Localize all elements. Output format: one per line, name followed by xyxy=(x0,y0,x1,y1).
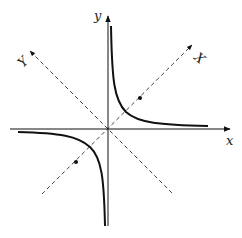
hyperbola-diagram: x y X Y xyxy=(0,0,242,238)
rotated-y-label: Y xyxy=(15,53,33,71)
x-axis-label: x xyxy=(226,133,234,148)
y-axis-label: y xyxy=(93,8,102,23)
rotated-x-label: X xyxy=(191,49,209,68)
focus-point-lower xyxy=(74,160,78,164)
hyperbola-branch-lower-left xyxy=(18,132,105,226)
focus-point-upper xyxy=(138,96,142,100)
rotated-x-axis xyxy=(42,45,192,194)
hyperbola-branch-upper-right xyxy=(111,26,208,126)
